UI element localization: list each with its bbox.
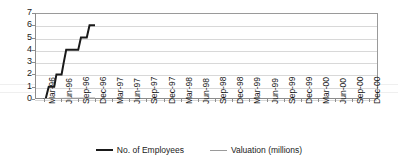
x-axis-tick-mark — [284, 99, 285, 102]
legend-label: Valuation (millions) — [231, 146, 302, 155]
chart-container: 01234567 Mar-96Jun-96Sep-96Dec-96Mar-97J… — [0, 0, 398, 164]
legend-item[interactable]: Valuation (millions) — [210, 146, 302, 155]
x-axis-tick-mark — [369, 99, 370, 102]
legend-line-swatch — [210, 150, 227, 151]
x-axis-tick-mark — [129, 99, 130, 102]
legend-line-swatch — [96, 149, 113, 151]
x-axis-tick-mark — [61, 99, 62, 102]
x-axis-tick-mark — [301, 99, 302, 102]
x-axis-tick-mark — [198, 99, 199, 102]
y-axis-tick-label: 0 — [8, 94, 32, 103]
x-axis-tick-mark — [78, 99, 79, 102]
y-axis-tick-label: 4 — [8, 45, 32, 54]
x-axis-tick-mark — [44, 99, 45, 102]
series-line — [44, 98, 95, 99]
y-axis-tick-label: 3 — [8, 57, 32, 66]
y-axis-tick-label: 7 — [8, 8, 32, 17]
y-axis-tick-label: 1 — [8, 82, 32, 91]
x-axis-tick-mark — [267, 99, 268, 102]
chart-legend: No. of EmployeesValuation (millions) — [0, 143, 398, 157]
x-axis-tick-mark — [318, 99, 319, 102]
x-axis-tick-mark — [181, 99, 182, 102]
series-line — [44, 25, 95, 99]
x-axis-tick-mark — [215, 99, 216, 102]
x-axis-tick-mark — [112, 99, 113, 102]
x-axis-tick-mark — [95, 99, 96, 102]
y-axis: 01234567 — [3, 0, 32, 164]
series-layer — [35, 13, 378, 99]
y-axis-tick-label: 2 — [8, 69, 32, 78]
x-axis-tick-mark — [164, 99, 165, 102]
x-axis-tick-mark — [335, 99, 336, 102]
x-axis-tick-mark — [249, 99, 250, 102]
x-axis-tick-mark — [232, 99, 233, 102]
y-axis-tick-mark — [32, 99, 35, 100]
x-axis-tick-mark — [352, 99, 353, 102]
legend-item[interactable]: No. of Employees — [96, 146, 184, 155]
y-axis-tick-label: 6 — [8, 20, 32, 29]
legend-label: No. of Employees — [117, 146, 184, 155]
y-axis-tick-label: 5 — [8, 33, 32, 42]
x-axis-tick-mark — [146, 99, 147, 102]
